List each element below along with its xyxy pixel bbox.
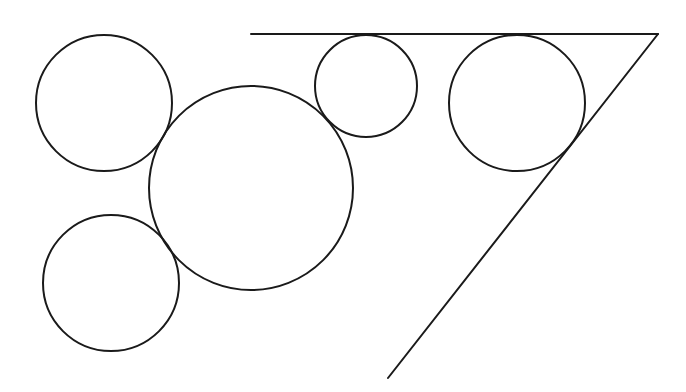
circle-top-left — [36, 35, 172, 171]
circle-small-top — [315, 35, 417, 137]
diagonal-line — [388, 34, 658, 378]
geometry-diagram — [0, 0, 686, 392]
circle-bottom-left — [43, 215, 179, 351]
circle-right-corner — [449, 35, 585, 171]
circle-large-center — [149, 86, 353, 290]
